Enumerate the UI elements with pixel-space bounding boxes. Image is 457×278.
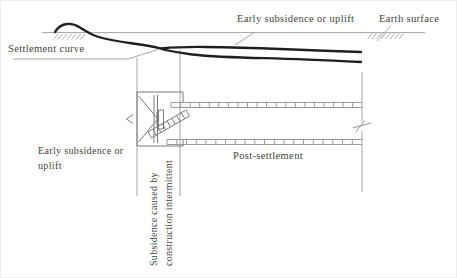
early-subsidence-top-label: Early subsidence or uplift (237, 12, 354, 27)
subsidence-rotated-line2: construction intermittent (161, 145, 176, 266)
settlement-curve-early (161, 47, 361, 52)
settlement-diagram: Early subsidence or uplift Earth surface… (0, 0, 457, 278)
tunnel-lining-bottom (167, 140, 362, 145)
ground-hatch-right-icon (368, 26, 404, 42)
subsidence-rotated-line1: Subsidence caused by (146, 145, 161, 266)
early-subsidence-left-label: Early subsidence or uplift (38, 144, 124, 173)
settlement-curve-label: Settlement curve (8, 42, 84, 57)
subsidence-rotated-label: Subsidence caused by construction interm… (146, 145, 176, 266)
advance-arrow-icon (127, 115, 134, 124)
settlement-curves (55, 24, 361, 62)
top-label-leader-line (235, 33, 254, 45)
post-settlement-label: Post-settlement (233, 149, 303, 164)
early-subsidence-left-line1: Early subsidence or (38, 144, 124, 159)
early-subsidence-left-line2: uplift (38, 159, 124, 174)
conveyor-housing (159, 110, 164, 129)
break-symbol-icon (353, 121, 372, 132)
ground-hatch-left-icon (54, 34, 86, 40)
tunnel-lining-top (171, 103, 362, 108)
earth-surface-label: Earth surface (379, 12, 439, 27)
settlement-label-leader-line (128, 49, 161, 60)
